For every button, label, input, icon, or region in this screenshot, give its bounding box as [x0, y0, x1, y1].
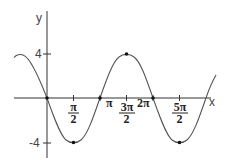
point-2pi	[151, 96, 155, 100]
sine-graph: y x 4 -4 π 2 π 3π 2 2π 5π 2	[0, 0, 233, 166]
point-origin	[45, 96, 49, 100]
x-axis-label: x	[209, 95, 215, 109]
point-pi	[98, 96, 102, 100]
y-tick-label-4: 4	[35, 47, 42, 61]
x-tick-label-pi-half-den: 2	[71, 112, 77, 126]
x-tick-label-pi: π	[106, 96, 113, 110]
point-max	[125, 52, 129, 56]
point-min-1	[72, 141, 76, 145]
x-tick-label-3pi-half-den: 2	[124, 112, 130, 126]
y-axis-label: y	[36, 11, 42, 25]
x-tick-label-5pi-half-den: 2	[177, 112, 183, 126]
y-tick-label-neg4: -4	[29, 136, 40, 150]
x-tick-label-2pi: 2π	[137, 96, 150, 110]
point-min-2	[178, 141, 182, 145]
